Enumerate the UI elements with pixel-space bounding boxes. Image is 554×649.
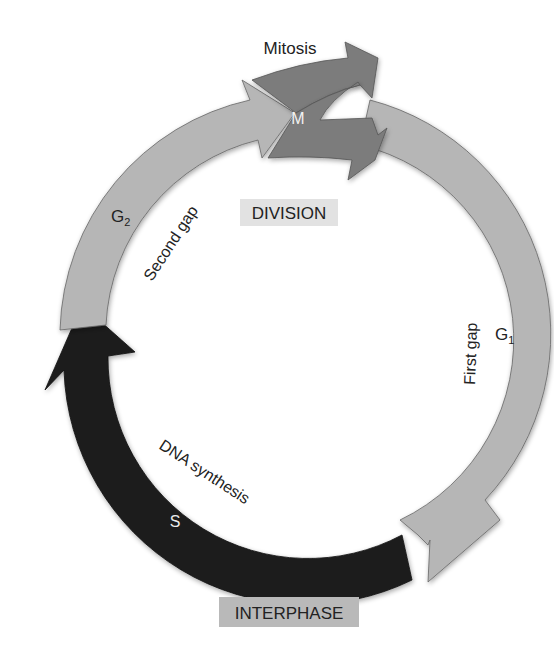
division-label: DIVISION	[252, 204, 327, 223]
second-gap-label: Second gap	[140, 203, 201, 284]
g1-arc	[360, 100, 551, 582]
s-arc	[45, 305, 412, 605]
first-gap-label: First gap	[461, 322, 480, 385]
s-label: S	[170, 513, 181, 530]
interphase-label: INTERPHASE	[235, 604, 344, 623]
cell-cycle-diagram: DIVISION INTERPHASE Mitosis M G2 Second …	[0, 0, 554, 649]
m-label: M	[291, 110, 304, 127]
g1-label: G1	[495, 325, 514, 346]
mitosis-label: Mitosis	[264, 39, 317, 58]
dna-synthesis-label: DNA synthesis	[156, 436, 253, 507]
